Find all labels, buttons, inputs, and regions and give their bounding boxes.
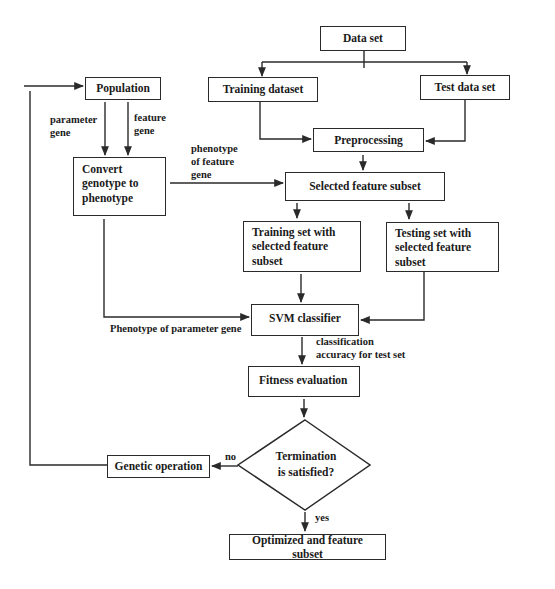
node-optimized: Optimized and feature subset xyxy=(229,534,386,560)
node-training-set-selected-label: Training set with selected feature subse… xyxy=(252,225,336,268)
node-preprocessing: Preprocessing xyxy=(313,128,424,152)
node-testing-set-selected: Testing set with selected feature subset xyxy=(386,222,499,272)
node-test-data-set-label: Test data set xyxy=(435,80,496,94)
edge-training-to-preprocessing xyxy=(260,102,311,139)
node-optimized-label: Optimized and feature subset xyxy=(236,533,379,562)
node-data-set: Data set xyxy=(320,26,406,51)
node-genetic-operation-label: Genetic operation xyxy=(115,459,203,473)
node-svm-classifier: SVM classifier xyxy=(251,304,359,336)
node-svm-classifier-label: SVM classifier xyxy=(269,311,341,325)
label-yes: yes xyxy=(315,512,329,525)
node-training-dataset-label: Training dataset xyxy=(223,82,304,96)
label-feature-gene: feature gene xyxy=(134,112,166,138)
node-termination-label: Termination is satisfied? xyxy=(266,449,346,480)
node-fitness-evaluation: Fitness evaluation xyxy=(248,366,360,397)
edge-genetic-loop xyxy=(30,91,107,465)
label-parameter-gene: parameter gene xyxy=(50,114,97,140)
node-data-set-label: Data set xyxy=(343,31,383,45)
edge-test-to-preprocessing xyxy=(426,100,465,141)
node-population-label: Population xyxy=(96,81,150,95)
node-convert: Convert genotype to phenotype xyxy=(73,157,166,216)
label-no: no xyxy=(225,451,236,464)
label-classification-accuracy: classification accuracy for test set xyxy=(316,336,405,362)
node-population: Population xyxy=(85,77,161,100)
node-test-data-set: Test data set xyxy=(420,75,510,100)
edge-convert-to-svm xyxy=(104,219,249,317)
label-phenotype-feature-gene: phenotype of feature gene xyxy=(191,143,238,181)
edge-testingset-to-svm xyxy=(361,272,424,320)
node-training-dataset: Training dataset xyxy=(208,77,318,102)
node-selected-feature-subset: Selected feature subset xyxy=(285,172,445,201)
node-fitness-evaluation-label: Fitness evaluation xyxy=(259,373,348,387)
node-selected-feature-subset-label: Selected feature subset xyxy=(309,179,421,193)
label-phenotype-parameter-gene: Phenotype of parameter gene xyxy=(110,323,241,336)
node-training-set-selected: Training set with selected feature subse… xyxy=(243,221,361,272)
node-preprocessing-label: Preprocessing xyxy=(334,133,403,147)
node-testing-set-selected-label: Testing set with selected feature subset xyxy=(395,226,471,269)
node-convert-label: Convert genotype to phenotype xyxy=(82,162,139,205)
node-genetic-operation: Genetic operation xyxy=(107,455,210,478)
